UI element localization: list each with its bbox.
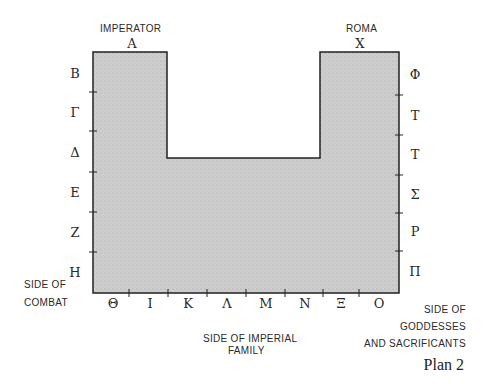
right-letter: Π <box>409 264 420 279</box>
left-letter: Z <box>70 225 79 240</box>
right-letter: P <box>411 224 420 239</box>
left-letter: H <box>69 265 80 280</box>
bottom-letter: Λ <box>222 296 231 311</box>
bottom-letter: K <box>183 296 193 311</box>
left-letter: Δ <box>70 145 79 160</box>
side-of-imperial-family-label: FAMILY <box>228 345 265 356</box>
letter-a: A <box>127 36 136 51</box>
side-of-combat-label: SIDE OF <box>24 279 66 290</box>
roma-label: ROMA <box>346 23 377 34</box>
imperator-label: IMPERATOR <box>100 23 161 34</box>
bottom-letter: O <box>374 296 385 311</box>
side-of-goddesses-label: SIDE OF <box>424 304 466 315</box>
right-letter: T <box>411 108 420 123</box>
bottom-letter: M <box>259 296 272 311</box>
bottom-letter: I <box>147 296 152 311</box>
bottom-letter: Θ <box>108 296 119 311</box>
side-of-imperial-family-label: SIDE OF IMPERIAL <box>203 333 297 344</box>
left-letter: E <box>70 185 80 200</box>
letter-x: X <box>355 36 364 51</box>
side-of-goddesses-label: GODDESSES <box>400 321 466 332</box>
side-of-combat-label: COMBAT <box>24 297 68 308</box>
bottom-letter: Ξ <box>336 296 345 311</box>
right-letter: Φ <box>410 67 421 82</box>
left-letter: B <box>70 66 80 81</box>
plan-caption: Plan 2 <box>424 356 464 374</box>
side-of-goddesses-label: AND SACRIFICANTS <box>364 338 466 349</box>
left-letter: Γ <box>70 105 79 120</box>
floor-plan-shape <box>93 52 399 293</box>
right-letter: Σ <box>410 187 419 202</box>
bottom-letter: N <box>299 296 310 311</box>
right-letter: T <box>411 147 420 162</box>
